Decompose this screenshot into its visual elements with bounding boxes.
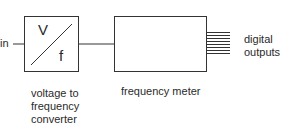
frequency-meter-block xyxy=(115,17,207,72)
frequency-meter-caption: frequency meter xyxy=(121,85,200,98)
vf-symbol-v: V xyxy=(38,22,48,38)
digital-outputs-label: digital outputs xyxy=(244,33,280,59)
input-label: in xyxy=(0,37,9,50)
vf-caption: voltage to frequency converter xyxy=(31,87,79,123)
vf-symbol-f: f xyxy=(59,48,63,64)
digital-output-lines xyxy=(207,33,230,54)
